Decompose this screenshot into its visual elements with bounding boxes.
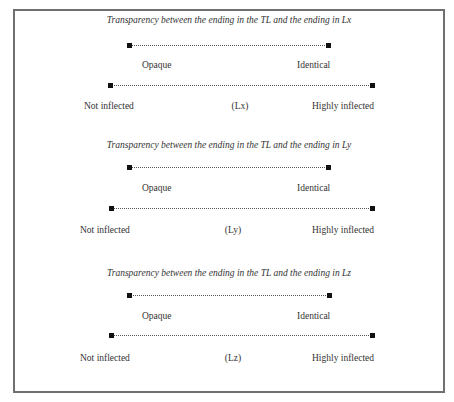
scale-endpoint-marker: [327, 293, 332, 298]
section-title: Transparency between the ending in the T…: [107, 15, 352, 25]
inflection-scale: [111, 333, 373, 338]
scale-endpoint-marker: [370, 206, 375, 211]
language-label: (Lz): [225, 353, 241, 363]
transparency-scale: [129, 43, 329, 48]
scale-dotted-line: [112, 85, 371, 86]
scale-endpoint-marker: [109, 206, 114, 211]
language-label: (Ly): [225, 225, 241, 235]
scale-endpoint-marker: [127, 43, 132, 48]
not-inflected-label: Not inflected: [80, 353, 130, 363]
inflection-scale: [110, 83, 373, 88]
scale-dotted-line: [113, 208, 371, 209]
highly-inflected-label: Highly inflected: [312, 225, 374, 235]
scale-dotted-line: [131, 295, 328, 296]
identical-label: Identical: [297, 183, 330, 193]
section-title: Transparency between the ending in the T…: [107, 140, 351, 150]
scale-endpoint-marker: [127, 165, 132, 170]
identical-label: Identical: [297, 311, 330, 321]
scale-endpoint-marker: [109, 333, 114, 338]
scale-dotted-line: [131, 45, 327, 46]
scale-endpoint-marker: [127, 293, 132, 298]
not-inflected-label: Not inflected: [84, 101, 134, 111]
highly-inflected-label: Highly inflected: [312, 353, 374, 363]
transparency-scale: [129, 293, 330, 298]
opaque-label: Opaque: [142, 311, 172, 321]
highly-inflected-label: Highly inflected: [312, 101, 374, 111]
scale-endpoint-marker: [370, 333, 375, 338]
scale-dotted-line: [131, 167, 327, 168]
transparency-scale: [129, 165, 329, 170]
scale-dotted-line: [113, 335, 371, 336]
identical-label: Identical: [297, 60, 330, 70]
scale-endpoint-marker: [108, 83, 113, 88]
opaque-label: Opaque: [142, 60, 172, 70]
inflection-scale: [111, 206, 373, 211]
scale-endpoint-marker: [370, 83, 375, 88]
opaque-label: Opaque: [142, 183, 172, 193]
scale-endpoint-marker: [326, 43, 331, 48]
language-label: (Lx): [232, 101, 249, 111]
scale-endpoint-marker: [326, 165, 331, 170]
not-inflected-label: Not inflected: [80, 225, 130, 235]
section-title: Transparency between the ending in the T…: [107, 268, 351, 278]
